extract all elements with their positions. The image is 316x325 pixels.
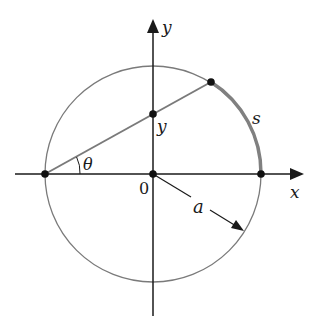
circle-diagram: y x y s θ 0 a <box>0 0 316 325</box>
x-axis-arrow-icon <box>290 168 304 180</box>
right-point <box>257 170 265 178</box>
arc-s <box>211 82 261 174</box>
radius-line-1 <box>153 174 191 197</box>
angle-label: θ <box>83 155 93 174</box>
secant-line <box>45 82 211 174</box>
radius-label: a <box>193 196 204 217</box>
origin-point <box>149 170 157 178</box>
y-intercept-point <box>149 110 157 118</box>
x-axis-label: x <box>290 182 300 202</box>
radius-line-2 <box>210 210 236 226</box>
diagram-canvas: y x y s θ 0 a <box>0 0 316 325</box>
angle-arc <box>77 157 80 174</box>
radius-arrow-icon <box>231 220 244 231</box>
y-axis-label: y <box>161 17 172 37</box>
origin-label: 0 <box>139 179 149 198</box>
left-point <box>41 170 49 178</box>
circle-point <box>207 78 215 86</box>
arc-length-label: s <box>252 108 261 128</box>
y-axis-arrow-icon <box>147 19 159 33</box>
y-intercept-label: y <box>156 116 167 136</box>
